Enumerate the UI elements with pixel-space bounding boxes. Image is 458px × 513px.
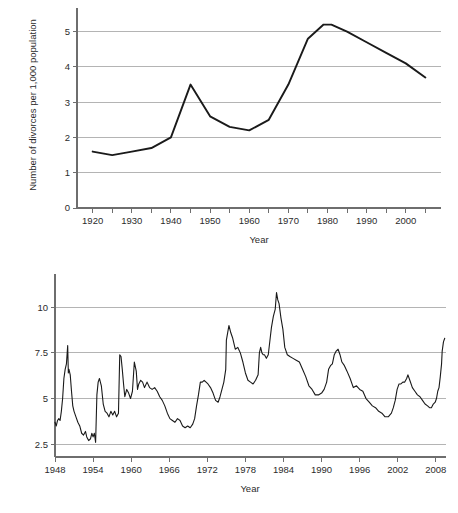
x-tick-label: 2000 <box>395 215 416 226</box>
divorce-y-axis-title: Number of divorces per 1,000 population <box>27 19 38 191</box>
unemployment-rate-line <box>55 293 445 443</box>
y-tick-label: 2 <box>65 132 70 143</box>
unemployment-rate-svg: 2.557.510 194819541960196619721978198419… <box>0 258 458 513</box>
x-tick-label: 1930 <box>121 215 142 226</box>
unemployment-ytick-labels: 2.557.510 <box>35 302 48 450</box>
y-tick-label: 5 <box>43 393 48 404</box>
unemployment-xtick-labels: 1948195419601966197219781984199019962002… <box>44 464 446 475</box>
x-tick-label: 1920 <box>82 215 103 226</box>
x-tick-label: 1960 <box>121 464 142 475</box>
y-tick-label: 1 <box>65 167 70 178</box>
y-tick-label: 10 <box>37 302 48 313</box>
y-tick-label: 3 <box>65 97 70 108</box>
x-tick-label: 1972 <box>197 464 218 475</box>
divorce-rate-chart: 012345 192019301940195019601970198019902… <box>0 0 458 258</box>
x-tick-label: 1978 <box>235 464 256 475</box>
divorce-rate-line <box>93 25 426 156</box>
x-tick-label: 2002 <box>387 464 408 475</box>
x-tick-label: 1954 <box>83 464 104 475</box>
y-tick-label: 2.5 <box>35 439 48 450</box>
x-tick-label: 1970 <box>278 215 299 226</box>
y-tick-label: 7.5 <box>35 347 48 358</box>
x-tick-label: 1996 <box>349 464 370 475</box>
divorce-gridlines <box>77 32 441 208</box>
divorce-ticks <box>73 32 425 213</box>
unemployment-ticks <box>51 307 436 462</box>
unemployment-x-axis-title: Year <box>240 483 259 494</box>
divorce-axes <box>77 8 441 208</box>
x-tick-label: 1980 <box>317 215 338 226</box>
divorce-rate-svg: 012345 192019301940195019601970198019902… <box>0 0 458 258</box>
x-tick-label: 1960 <box>239 215 260 226</box>
x-tick-label: 1940 <box>160 215 181 226</box>
unemployment-rate-chart: 2.557.510 194819541960196619721978198419… <box>0 258 458 513</box>
divorce-x-axis-title: Year <box>249 234 268 245</box>
unemployment-gridlines <box>55 307 446 444</box>
divorce-ytick-labels: 012345 <box>65 26 70 213</box>
y-tick-label: 5 <box>65 26 70 37</box>
x-tick-label: 1990 <box>356 215 377 226</box>
unemployment-axes <box>55 274 446 457</box>
x-tick-label: 1950 <box>200 215 221 226</box>
y-tick-label: 4 <box>65 61 70 72</box>
x-tick-label: 1984 <box>273 464 294 475</box>
divorce-xtick-labels: 192019301940195019601970198019902000 <box>82 215 416 226</box>
x-tick-label: 1966 <box>159 464 180 475</box>
x-tick-label: 1990 <box>311 464 332 475</box>
x-tick-label: 2008 <box>425 464 446 475</box>
x-tick-label: 1948 <box>44 464 65 475</box>
y-tick-label: 0 <box>65 202 70 213</box>
